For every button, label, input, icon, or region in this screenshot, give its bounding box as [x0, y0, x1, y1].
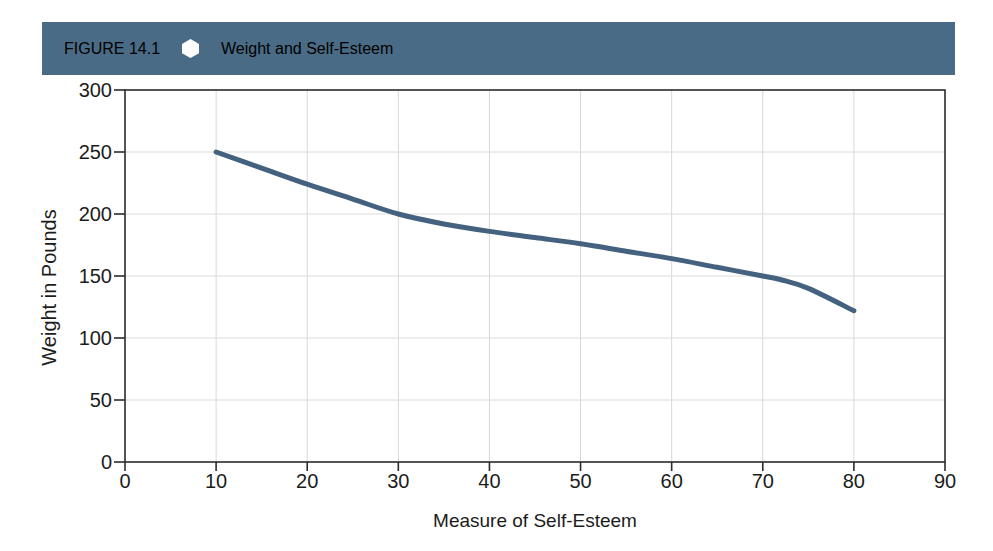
figure-header-bar: FIGURE 14.1 Weight and Self-Esteem	[42, 22, 955, 75]
hexagon-icon	[182, 39, 199, 58]
data-series-line	[216, 152, 854, 311]
figure-number-label: FIGURE 14.1	[64, 40, 160, 58]
grid-lines	[125, 90, 945, 462]
figure-title: Weight and Self-Esteem	[221, 40, 393, 58]
plot-area	[0, 78, 993, 551]
chart-container: Weight in Pounds Measure of Self-Esteem …	[0, 78, 993, 551]
axis-tick-marks	[114, 90, 945, 471]
